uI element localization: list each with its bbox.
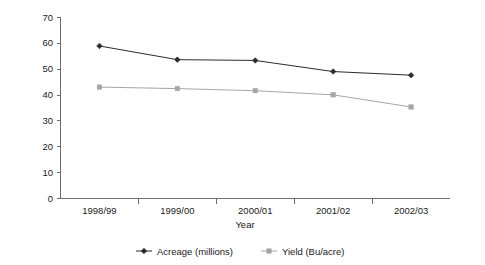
- y-axis-tick-label: 10: [42, 167, 53, 178]
- x-axis-tick-label: 2001/02: [316, 205, 350, 216]
- data-point-marker: [253, 88, 257, 92]
- data-point-marker: [331, 93, 335, 97]
- legend-label: Yield (Bu/acre): [282, 246, 344, 257]
- x-axis-tick-label: 2002/03: [394, 205, 428, 216]
- data-point-marker: [175, 86, 179, 90]
- y-axis-tick-label: 30: [42, 115, 53, 126]
- x-axis-tick-label: 1998/99: [82, 205, 116, 216]
- y-axis-tick-label: 20: [42, 141, 53, 152]
- y-axis-tick-label: 50: [42, 63, 53, 74]
- chart-container: 010203040506070 1998/991999/002000/01200…: [0, 0, 485, 265]
- x-axis-tick-label: 2000/01: [238, 205, 272, 216]
- data-point-marker: [97, 85, 101, 89]
- line-chart: 010203040506070 1998/991999/002000/01200…: [0, 0, 485, 265]
- y-axis-tick-label: 60: [42, 37, 53, 48]
- y-axis-tick-label: 0: [48, 193, 53, 204]
- legend-marker-symbol: [267, 249, 271, 253]
- x-axis-tick-label: 1999/00: [160, 205, 194, 216]
- data-point-marker: [409, 105, 413, 109]
- y-axis-tick-label: 70: [42, 12, 53, 23]
- legend-label: Acreage (millions): [157, 246, 233, 257]
- y-axis-tick-label: 40: [42, 89, 53, 100]
- x-axis-title: Year: [235, 219, 254, 230]
